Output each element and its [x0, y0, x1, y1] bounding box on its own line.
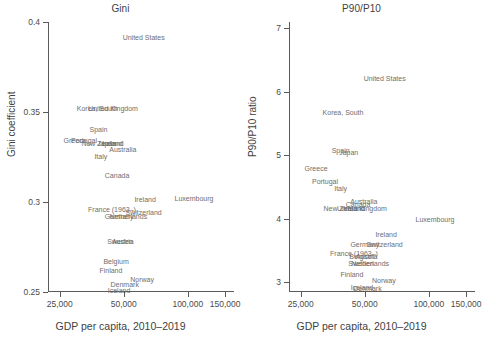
y-tick-mark	[284, 282, 289, 283]
plot-area-gini: 0.250.30.350.425,00050,000100,000150,000…	[48, 22, 234, 292]
x-tick-label: 25,000	[288, 299, 314, 309]
data-point-label: Iceland	[108, 287, 131, 294]
data-point-label: Ireland	[375, 230, 396, 237]
plot-area-p90p10: 3456725,00050,000100,000150,000United St…	[289, 22, 475, 292]
y-axis-title-p90p10: P90/P10 ratio	[247, 96, 258, 157]
data-point-label: Luxembourg	[416, 215, 455, 222]
x-tick-label: 100,000	[413, 299, 444, 309]
y-tick-label: 7	[276, 23, 281, 33]
data-point-label: Korea, South	[323, 109, 364, 116]
data-point-label: Italy	[94, 153, 107, 160]
x-tick-mark	[466, 292, 467, 297]
data-point-label: Netherlands	[109, 212, 147, 219]
y-tick-label: 0.35	[23, 107, 40, 117]
x-tick-label: 150,000	[210, 299, 241, 309]
data-point-label: Japan	[339, 148, 358, 155]
y-tick-mark	[43, 22, 48, 23]
y-tick-mark	[43, 292, 48, 293]
data-point-label: Italy	[334, 184, 347, 191]
data-point-label: Austria	[356, 252, 378, 259]
x-tick-mark	[60, 292, 61, 297]
y-tick-label: 0.4	[28, 17, 40, 27]
y-tick-mark	[284, 155, 289, 156]
y-tick-mark	[43, 112, 48, 113]
data-point-label: Spain	[89, 126, 107, 133]
x-tick-label: 25,000	[47, 299, 73, 309]
panel-title-p90p10: P90/P10	[241, 3, 482, 14]
data-point-label: Denmark	[353, 285, 381, 292]
data-point-label: United Kingdom	[88, 104, 138, 111]
data-point-label: Portugal	[312, 177, 338, 184]
y-axis-line	[48, 22, 49, 292]
data-point-label: Switzerland	[367, 240, 403, 247]
two-panel-scatter-figure: Gini Gini coefficient 0.250.30.350.425,0…	[0, 0, 482, 345]
data-point-label: Ireland	[134, 196, 155, 203]
y-axis-line	[289, 22, 290, 292]
y-tick-mark	[43, 202, 48, 203]
data-point-label: United States	[364, 74, 406, 81]
x-tick-mark	[429, 292, 430, 297]
y-tick-label: 5	[276, 150, 281, 160]
data-point-label: Sweden	[107, 237, 132, 244]
y-tick-mark	[284, 92, 289, 93]
y-tick-mark	[284, 28, 289, 29]
x-tick-mark	[188, 292, 189, 297]
x-tick-label: 50,000	[111, 299, 137, 309]
data-point-label: Luxembourg	[175, 194, 214, 201]
x-axis-line	[48, 291, 234, 292]
x-tick-mark	[301, 292, 302, 297]
data-point-label: United States	[123, 34, 165, 41]
y-tick-label: 3	[276, 277, 281, 287]
y-tick-label: 6	[276, 87, 281, 97]
x-tick-label: 50,000	[352, 299, 378, 309]
data-point-label: Finland	[340, 271, 363, 278]
data-point-label: Belgium	[103, 257, 128, 264]
data-point-label: Norway	[372, 276, 396, 283]
y-tick-label: 0.3	[28, 197, 40, 207]
data-point-label: Finland	[99, 266, 122, 273]
x-tick-label: 100,000	[172, 299, 203, 309]
panel-p90p10: P90/P10 P90/P10 ratio 3456725,00050,0001…	[241, 0, 482, 345]
y-tick-mark	[284, 219, 289, 220]
panel-title-gini: Gini	[0, 3, 241, 14]
x-axis-line	[289, 291, 475, 292]
data-point-label: Greece	[305, 165, 328, 172]
panel-gini: Gini Gini coefficient 0.250.30.350.425,0…	[0, 0, 241, 345]
data-point-label: Canada	[105, 172, 130, 179]
x-axis-title-p90p10: GDP per capita, 2010–2019	[241, 320, 482, 332]
data-point-label: Australia	[109, 145, 136, 152]
y-axis-title-gini: Gini coefficient	[6, 92, 17, 157]
data-point-label: Ireland	[343, 205, 364, 212]
data-point-label: Netherlands	[351, 260, 389, 267]
x-tick-label: 150,000	[451, 299, 482, 309]
x-tick-mark	[225, 292, 226, 297]
data-point-label: Norway	[130, 275, 154, 282]
x-axis-title-gini: GDP per capita, 2010–2019	[0, 320, 241, 332]
x-tick-mark	[365, 292, 366, 297]
y-tick-label: 0.25	[23, 287, 40, 297]
y-tick-label: 4	[276, 214, 281, 224]
